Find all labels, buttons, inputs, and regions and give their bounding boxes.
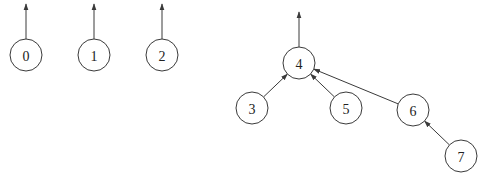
- node-3: 3: [236, 92, 268, 124]
- diagram-canvas: 01234567: [0, 0, 481, 175]
- node-7: 7: [445, 140, 477, 172]
- node-4: 4: [283, 47, 315, 79]
- edge-3-to-4: [264, 74, 288, 97]
- edge-5-to-4: [311, 74, 335, 97]
- node-label: 6: [410, 104, 417, 119]
- edge-7-to-6: [425, 121, 450, 145]
- node-label: 5: [343, 102, 350, 117]
- node-1: 1: [78, 39, 110, 71]
- node-label: 0: [23, 49, 30, 64]
- node-label: 3: [249, 102, 256, 117]
- node-2: 2: [146, 39, 178, 71]
- node-label: 1: [91, 49, 98, 64]
- node-label: 7: [458, 150, 465, 165]
- node-0: 0: [10, 39, 42, 71]
- edges-layer: [26, 4, 449, 145]
- node-label: 4: [296, 57, 303, 72]
- nodes-layer: 01234567: [10, 39, 477, 172]
- node-5: 5: [330, 92, 362, 124]
- node-6: 6: [397, 94, 429, 126]
- node-label: 2: [159, 49, 166, 64]
